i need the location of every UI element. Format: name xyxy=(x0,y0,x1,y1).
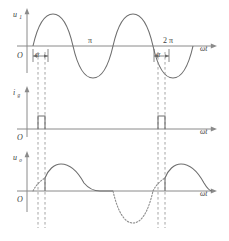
output-voltage-origin-label: O xyxy=(17,195,23,204)
input-voltage-alpha-label-second: α xyxy=(156,50,161,59)
panel-gate-current: i g O ωt xyxy=(13,86,217,142)
gate-current-pulse-1 xyxy=(38,116,45,129)
gate-current-x-arrow xyxy=(211,127,217,132)
waveform-svg: u 1 O α α π 2 π ωt xyxy=(0,0,229,241)
output-voltage-suppressed-lead-in-2 xyxy=(153,178,165,191)
input-voltage-alpha-label-first: α xyxy=(35,50,40,59)
panel-input-voltage: u 1 O α α π 2 π ωt xyxy=(13,8,217,78)
panel-output-voltage: u o O ωt xyxy=(13,151,217,223)
gate-current-y-arrow xyxy=(25,86,30,92)
output-voltage-y-label: u xyxy=(13,153,17,162)
gate-current-origin-label: O xyxy=(17,133,23,142)
gate-current-y-label: i xyxy=(13,88,15,97)
output-voltage-suppressed-lead-in-1 xyxy=(33,178,45,191)
input-voltage-y-label-sub: 1 xyxy=(19,14,22,20)
input-voltage-tick-pi: π xyxy=(88,36,92,45)
output-voltage-y-arrow xyxy=(25,151,30,157)
input-voltage-y-label: u xyxy=(13,10,17,19)
output-voltage-conduction-arc-1 xyxy=(45,164,113,191)
input-voltage-y-arrow xyxy=(25,8,30,14)
input-voltage-tick-2pi: 2 π xyxy=(163,36,173,45)
input-voltage-origin-label: O xyxy=(17,51,23,60)
output-voltage-conduction-arc-2 xyxy=(165,164,212,191)
waveform-figure: u 1 O α α π 2 π ωt xyxy=(0,0,229,241)
output-voltage-x-label: ωt xyxy=(200,189,208,198)
input-voltage-x-arrow xyxy=(211,44,217,49)
output-voltage-y-label-sub: o xyxy=(19,157,22,163)
gate-current-pulse-2 xyxy=(158,116,165,129)
gate-current-x-label: ωt xyxy=(200,127,208,136)
input-voltage-x-label: ωt xyxy=(200,44,208,53)
gate-current-y-label-sub: g xyxy=(18,92,21,98)
firing-angle-guide-lines xyxy=(38,52,165,228)
output-voltage-suppressed-negative-half xyxy=(113,191,153,223)
